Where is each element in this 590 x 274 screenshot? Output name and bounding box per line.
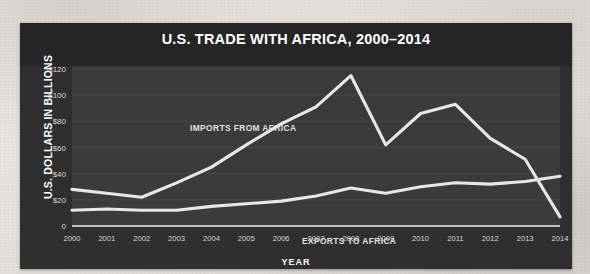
x-tick-label: 2004 bbox=[203, 234, 220, 243]
imports-series-label: IMPORTS FROM AFRICA bbox=[190, 123, 296, 133]
x-tick-label: 2003 bbox=[168, 234, 185, 243]
x-tick-label: 2010 bbox=[412, 234, 429, 243]
y-tick-label: $100 bbox=[48, 91, 66, 100]
y-tick-label: $40 bbox=[53, 170, 67, 179]
x-tick-label: 2001 bbox=[98, 234, 115, 243]
x-tick-label: 2006 bbox=[273, 234, 290, 243]
chart-panel: U.S. TRADE WITH AFRICA, 2000–2014 U.S. D… bbox=[20, 23, 572, 269]
x-tick-label: 2005 bbox=[238, 234, 255, 243]
series-line-exports bbox=[72, 176, 560, 210]
y-tick-label: $60 bbox=[53, 144, 67, 153]
y-tick-label: $20 bbox=[53, 196, 67, 205]
x-tick-label: 2000 bbox=[64, 234, 81, 243]
y-tick-label: $120 bbox=[48, 65, 66, 74]
x-tick-label: 2013 bbox=[517, 234, 534, 243]
y-tick-label: $80 bbox=[53, 117, 67, 126]
series-lines bbox=[72, 76, 560, 217]
exports-series-label: EXPORTS TO AFRICA bbox=[302, 236, 396, 246]
x-tick-label: 2012 bbox=[482, 234, 499, 243]
x-tick-label: 2014 bbox=[552, 234, 569, 243]
y-tick-label: 0 bbox=[62, 222, 67, 231]
chart-plot: $120$100$80$60$40$200 200020012002200320… bbox=[20, 23, 572, 269]
x-tick-label: 2002 bbox=[133, 234, 150, 243]
x-tick-label: 2011 bbox=[447, 234, 463, 243]
y-axis-ticks: $120$100$80$60$40$200 bbox=[48, 65, 66, 231]
